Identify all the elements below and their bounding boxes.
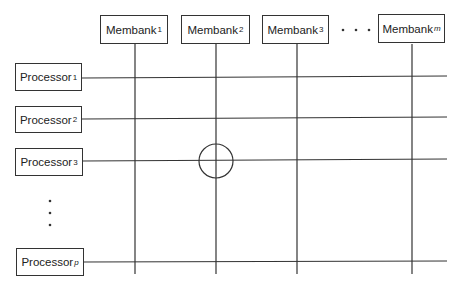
processor-2-label: Processor — [20, 114, 72, 126]
processor-3-label: Processor — [20, 156, 72, 168]
processor-1-bus — [82, 76, 447, 78]
processor-p-bus — [82, 261, 447, 262]
membank-2-label: Membank — [188, 24, 239, 36]
membank-3-box: Membank3 — [262, 15, 329, 44]
processor-2-bus — [82, 117, 447, 119]
membank-1-box: Membank1 — [100, 15, 168, 44]
horizontal-ellipsis — [342, 29, 371, 32]
membank-1-label: Membank — [106, 24, 157, 36]
processor-3-box: Processor3 — [15, 148, 83, 176]
vertical-ellipsis — [49, 200, 52, 227]
processor-1-box: Processor1 — [15, 63, 82, 91]
processor-p-box: Processorp — [16, 248, 84, 276]
membank-m-label: Membank — [382, 23, 433, 35]
membank-m-box: Membankm — [378, 14, 445, 43]
processor-2-box: Processor2 — [15, 106, 82, 133]
processor-1-label: Processor — [20, 71, 72, 83]
processor-3-bus — [82, 159, 447, 161]
processor-p-label: Processor — [21, 256, 73, 268]
membank-2-box: Membank2 — [181, 15, 250, 44]
membank-3-label: Membank — [268, 24, 319, 36]
